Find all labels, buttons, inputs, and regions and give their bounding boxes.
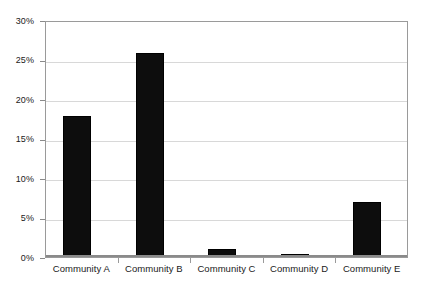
- y-tick-label-0: 0%: [0, 254, 34, 263]
- gridline-15: [46, 141, 407, 142]
- y-tick-label-15: 15%: [0, 135, 34, 144]
- bar-community-b: [136, 53, 164, 257]
- bar-community-a: [63, 116, 91, 257]
- gridline-25: [46, 62, 407, 63]
- y-tick-label-20: 20%: [0, 96, 34, 105]
- y-tick-label-5: 5%: [0, 214, 34, 223]
- y-tick-label-30: 30%: [0, 17, 34, 26]
- axis-baseline: [46, 255, 407, 257]
- x-tick-label-community-d: Community D: [263, 262, 336, 276]
- bar-chart: 30% 25% 20% 15% 10% 5% 0% C: [0, 0, 426, 287]
- x-tick-label-community-e: Community E: [335, 262, 408, 276]
- bar-community-e: [353, 202, 381, 257]
- y-tick-mark-0: [40, 258, 45, 259]
- x-tick-label-community-a: Community A: [45, 262, 118, 276]
- x-tick-label-community-c: Community C: [190, 262, 263, 276]
- plot-area: [45, 21, 408, 258]
- x-tick-label-community-b: Community B: [118, 262, 191, 276]
- y-tick-label-25: 25%: [0, 56, 34, 65]
- y-tick-label-10: 10%: [0, 175, 34, 184]
- gridline-10: [46, 180, 407, 181]
- gridline-20: [46, 101, 407, 102]
